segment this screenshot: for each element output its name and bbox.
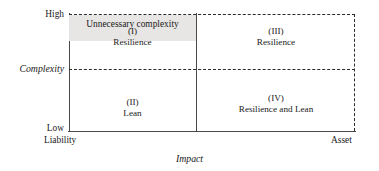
x-axis-title: Impact bbox=[0, 153, 379, 164]
quadrant-3-roman: (III) bbox=[197, 26, 355, 37]
quadrant-2: (II) Lean bbox=[69, 97, 196, 120]
quadrant-1-roman: (I) bbox=[69, 26, 196, 37]
x-axis-left-label: Liability bbox=[44, 135, 76, 146]
quadrant-1-name: Resilience bbox=[69, 37, 196, 48]
quadrant-1: (I) Resilience bbox=[69, 26, 196, 49]
quadrant-2-name: Lean bbox=[69, 108, 196, 119]
y-axis-title: Complexity bbox=[0, 63, 64, 74]
quadrant-4-roman: (IV) bbox=[197, 93, 355, 104]
y-axis-high-label: High bbox=[0, 9, 64, 20]
quadrant-matrix-figure: High Low Complexity Liability Asset Impa… bbox=[0, 0, 379, 171]
complexity-threshold-dashed-line bbox=[69, 69, 355, 70]
plot-area: Unnecessary complexity (I) Resilience (I… bbox=[69, 14, 355, 131]
quadrant-3-name: Resilience bbox=[197, 37, 355, 48]
y-axis-low-label: Low bbox=[0, 123, 64, 134]
quadrant-4-name: Resilience and Lean bbox=[197, 104, 355, 115]
quadrant-4: (IV) Resilience and Lean bbox=[197, 93, 355, 116]
x-axis-right-label: Asset bbox=[331, 135, 352, 146]
x-axis-line bbox=[68, 131, 356, 132]
quadrant-3: (III) Resilience bbox=[197, 26, 355, 49]
quadrant-2-roman: (II) bbox=[69, 97, 196, 108]
